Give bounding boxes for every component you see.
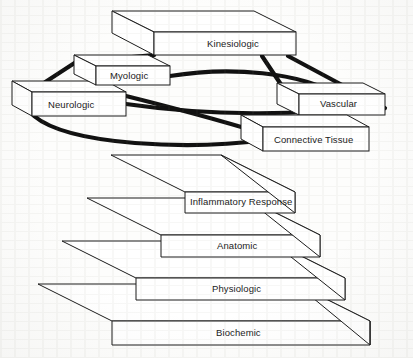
node-label-vascular: Vascular	[320, 99, 357, 109]
link-neurologic-connective-tissue	[34, 116, 266, 145]
stack-label-physiologic: Physiologic	[212, 284, 261, 294]
node-label-kinesiologic: Kinesiologic	[207, 39, 259, 49]
stack-label-inflammatory-response: Inflammatory Response	[190, 197, 292, 207]
stack-group	[38, 155, 370, 345]
node-label-connective-tissue: Connective Tissue	[274, 135, 353, 145]
node-label-neurologic: Neurologic	[48, 100, 94, 110]
stack-label-biochemic: Biochemic	[216, 328, 261, 338]
diagram-vector-layer	[0, 0, 413, 358]
node-box-connective-tissue[interactable]	[241, 115, 369, 151]
node-label-myologic: Myologic	[110, 71, 148, 81]
node-box-kinesiologic[interactable]	[112, 11, 296, 55]
diagram-canvas: Kinesiologic Myologic Neurologic Vascula…	[0, 0, 413, 358]
stack-label-anatomic: Anatomic	[217, 241, 257, 251]
